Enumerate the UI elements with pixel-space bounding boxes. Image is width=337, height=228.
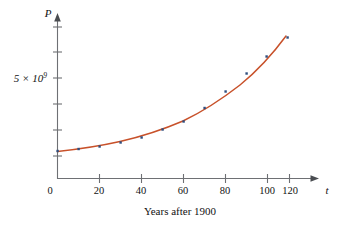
data-point xyxy=(286,36,288,38)
population-scatter-chart: P 5 × 109 0 20 40 60 80 100 120 t xyxy=(0,0,337,228)
data-point xyxy=(77,148,79,150)
data-point xyxy=(224,90,226,92)
y-axis-tick-label: 5 × 109 xyxy=(14,71,47,84)
x-axis-arrowhead xyxy=(311,175,320,182)
y-axis-variable-label: P xyxy=(44,7,52,19)
data-point xyxy=(245,72,247,74)
data-point xyxy=(56,150,58,152)
x-axis-tick-label-20: 20 xyxy=(94,185,105,196)
x-axis-caption: Years after 1900 xyxy=(144,205,217,217)
y-axis-group: P 5 × 109 xyxy=(14,7,62,179)
data-point xyxy=(161,128,163,130)
y-tick-mantissa: 5 × 10 xyxy=(14,72,44,84)
data-point xyxy=(119,141,121,143)
y-tick-exponent: 9 xyxy=(43,71,47,80)
x-axis-tick-label-60: 60 xyxy=(178,185,189,196)
x-axis-tick-label-40: 40 xyxy=(136,185,147,196)
exponential-fit-curve xyxy=(58,36,287,152)
data-point xyxy=(265,55,267,57)
x-axis-variable-label: t xyxy=(325,184,329,196)
data-points-group xyxy=(56,36,288,152)
x-axis-tick-label-80: 80 xyxy=(220,185,231,196)
x-axis-tick-label-120: 120 xyxy=(282,185,298,196)
y-axis-arrowhead xyxy=(54,13,61,22)
x-axis-tick-label-0: 0 xyxy=(47,185,52,196)
chart-svg: P 5 × 109 0 20 40 60 80 100 120 t xyxy=(0,0,337,228)
data-point xyxy=(182,120,184,122)
x-axis-tick-label-100: 100 xyxy=(259,185,275,196)
data-point xyxy=(98,145,100,147)
data-point xyxy=(140,136,142,138)
x-axis-group: 0 20 40 60 80 100 120 t xyxy=(47,174,329,196)
data-point xyxy=(203,107,205,109)
